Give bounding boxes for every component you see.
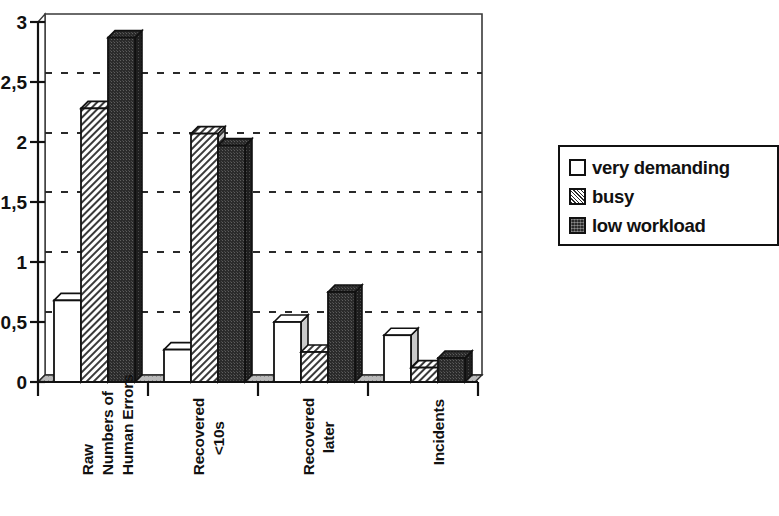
legend-item-low-workload: low workload: [569, 211, 777, 240]
plot-canvas: 3 2,5 2 1,5 1 0,5 0: [0, 0, 500, 400]
x-tick-line: Human Errors: [119, 374, 136, 475]
y-tick-label: 1,5: [1, 192, 28, 213]
legend-swatch-dark-icon: [569, 217, 586, 234]
x-tick-label-recovered-10s-line2: <10s: [193, 421, 244, 480]
legend-swatch-white-icon: [569, 159, 586, 176]
x-tick-line: Incidents: [430, 399, 447, 465]
x-tick-label-raw-numbers-line3: Human Errors: [102, 374, 153, 500]
legend-label: busy: [592, 186, 634, 208]
legend-label: low workload: [592, 215, 706, 237]
y-tick-label: 2,5: [1, 72, 28, 93]
y-tick-label: 0,5: [1, 312, 28, 333]
legend-item-very-demanding: very demanding: [569, 153, 777, 182]
chart-legend: very demanding busy low workload: [558, 145, 779, 246]
x-tick-line: <10s: [210, 421, 227, 455]
legend-label: very demanding: [592, 157, 730, 179]
y-tick-labels: 3 2,5 2 1,5 1 0,5 0: [1, 12, 28, 393]
x-tick-line: later: [320, 422, 337, 454]
legend-item-busy: busy: [569, 182, 777, 211]
legend-swatch-hatched-icon: [569, 188, 586, 205]
plot-area: 3 2,5 2 1,5 1 0,5 0: [0, 0, 500, 400]
x-tick-label-incidents: Incidents: [413, 399, 464, 490]
y-tick-label: 0: [16, 372, 27, 393]
bar-low-workload: [108, 31, 142, 382]
y-tick-label: 3: [16, 12, 27, 33]
bar-low-workload: [218, 139, 252, 382]
x-tick-label-recovered-later-line2: later: [303, 422, 354, 478]
bar-low-workload: [328, 285, 362, 382]
bar-low-workload: [438, 351, 472, 382]
bar-chart-figure: 3 2,5 2 1,5 1 0,5 0: [0, 0, 779, 516]
y-tick-label: 2: [16, 132, 27, 153]
y-tick-label: 1: [16, 252, 27, 273]
